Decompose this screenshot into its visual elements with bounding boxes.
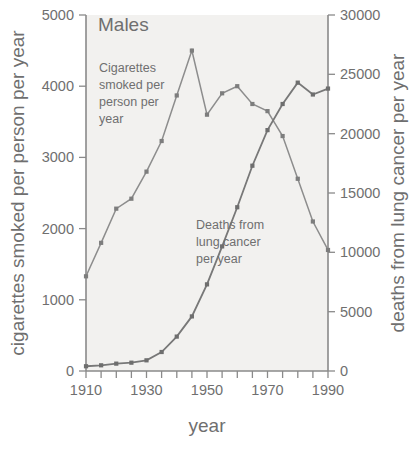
data-point	[281, 102, 285, 106]
line-chart-svg: 0 1000 2000 3000 4000 5000 0 5000 10000 …	[0, 0, 420, 452]
x-tick-label-1930: 1930	[130, 382, 162, 398]
x-axis-ticks	[86, 371, 328, 378]
y-left-tick-label-3000: 3000	[42, 149, 74, 165]
x-tick-label-1950: 1950	[191, 382, 223, 398]
data-point	[129, 361, 133, 365]
cigarettes-annotation-line-1: Cigarettes	[99, 61, 156, 75]
y-right-tick-label-20000: 20000	[340, 126, 380, 142]
deaths-annotation-line-2: lung cancer	[196, 235, 261, 249]
deaths-annotation-line-3: per year	[196, 252, 242, 266]
y-left-axis-title: cigarettes smoked per person per year	[7, 30, 28, 356]
x-axis-title: year	[189, 415, 227, 436]
data-point	[265, 128, 269, 132]
data-point	[99, 363, 103, 367]
data-point	[205, 282, 209, 286]
data-point	[144, 170, 148, 174]
data-point	[235, 84, 239, 88]
y-right-tick-label-15000: 15000	[340, 185, 380, 201]
y-left-tick-label-4000: 4000	[42, 78, 74, 94]
y-right-tick-label-30000: 30000	[340, 7, 380, 23]
x-tick-label-1970: 1970	[251, 382, 283, 398]
y-left-tick-label-2000: 2000	[42, 221, 74, 237]
y-left-tick-label-5000: 5000	[42, 7, 74, 23]
y-left-tick-label-1000: 1000	[42, 292, 74, 308]
data-point	[175, 334, 179, 338]
data-point	[114, 362, 118, 366]
data-point	[250, 102, 254, 106]
data-point	[235, 205, 239, 209]
data-point	[250, 164, 254, 168]
x-tick-label-1910: 1910	[70, 382, 102, 398]
y-left-tick-label-0: 0	[66, 363, 74, 379]
data-point	[311, 92, 315, 96]
data-point	[175, 93, 179, 97]
y-right-tick-label-10000: 10000	[340, 244, 380, 260]
data-point	[84, 364, 88, 368]
x-tick-label-1990: 1990	[312, 382, 344, 398]
data-point	[129, 197, 133, 201]
y-right-tick-label-0: 0	[340, 363, 348, 379]
deaths-annotation-line-1: Deaths from	[196, 218, 264, 232]
data-point	[144, 358, 148, 362]
x-axis-tick-labels: 1910 1930 1950 1970 1990	[70, 382, 344, 398]
data-point	[265, 109, 269, 113]
data-point	[190, 314, 194, 318]
y-left-ticks	[79, 15, 86, 371]
y-right-tick-labels: 0 5000 10000 15000 20000 25000 30000	[340, 7, 380, 379]
y-right-tick-label-5000: 5000	[340, 304, 372, 320]
data-point	[281, 134, 285, 138]
data-point	[114, 207, 118, 211]
y-right-tick-label-25000: 25000	[340, 66, 380, 82]
data-point	[296, 177, 300, 181]
panel-title: Males	[98, 14, 149, 35]
data-point	[160, 139, 164, 143]
cigarettes-annotation-line-2: smoked per	[99, 78, 164, 92]
y-left-tick-labels: 0 1000 2000 3000 4000 5000	[42, 7, 74, 379]
data-point	[160, 350, 164, 354]
data-point	[99, 241, 103, 245]
data-point	[84, 274, 88, 278]
cigarettes-annotation-line-4: year	[99, 112, 123, 126]
y-right-axis-title: deaths from lung cancer per year	[387, 53, 408, 332]
data-point	[190, 49, 194, 53]
data-point	[205, 113, 209, 117]
data-point	[311, 219, 315, 223]
data-point	[220, 91, 224, 95]
cigarettes-annotation-line-3: person per	[99, 95, 159, 109]
y-right-ticks	[328, 15, 335, 371]
chart-figure: 0 1000 2000 3000 4000 5000 0 5000 10000 …	[0, 0, 420, 452]
data-point	[326, 248, 330, 252]
data-point	[326, 86, 330, 90]
data-point	[296, 81, 300, 85]
